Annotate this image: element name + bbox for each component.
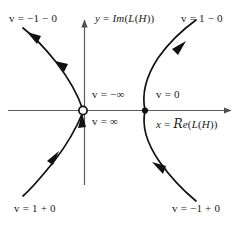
- open-circle-node: [79, 106, 87, 114]
- diagram-canvas: [0, 0, 243, 227]
- phase-diagram-figure: v = −1 − 0 y = Im(L(H)) v = 1 − 0 v = −∞…: [0, 0, 243, 227]
- arrowhead-upper-right: [172, 41, 186, 55]
- label-center-lower: v = ∞: [92, 116, 118, 127]
- lower-left-branch: [23, 112, 86, 196]
- label-bottom-left: v = 1 + 0: [14, 203, 56, 214]
- label-top-right: v = 1 − 0: [181, 13, 223, 24]
- label-y-axis: y = Im(L(H)): [95, 13, 154, 24]
- label-bottom-right: v = −1 + 0: [172, 203, 220, 214]
- upper-left-branch: [23, 28, 83, 110]
- arrowhead-lower-right: [152, 162, 166, 174]
- label-x-axis: x = Re(L(H)): [156, 118, 218, 130]
- label-right-of-origin: v = 0: [156, 89, 180, 100]
- label-center-upper: v = −∞: [92, 89, 124, 100]
- filled-dot-node: [142, 107, 148, 113]
- label-top-left: v = −1 − 0: [9, 13, 57, 24]
